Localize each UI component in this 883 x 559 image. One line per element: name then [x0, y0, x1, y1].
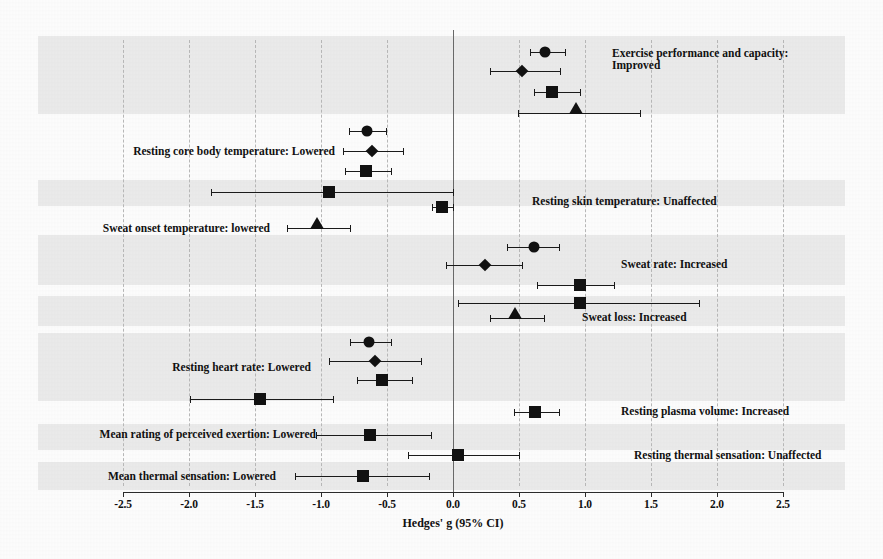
x-axis-tick-label: -1.5	[246, 498, 263, 510]
x-axis: -2.5-2.0-1.5-1.0-0.50.00.51.01.52.02.5He…	[0, 0, 883, 559]
x-axis-tick	[453, 492, 454, 497]
x-axis-tick	[123, 492, 124, 497]
x-axis-tick-label: -2.0	[180, 498, 197, 510]
x-axis-tick	[519, 492, 520, 497]
x-axis-tick	[255, 492, 256, 497]
x-axis-tick-label: 0.5	[512, 498, 526, 510]
x-axis-tick	[717, 492, 718, 497]
x-axis-tick-label: -1.0	[312, 498, 329, 510]
x-axis-tick-label: 0.0	[446, 498, 460, 510]
x-axis-tick	[321, 492, 322, 497]
x-axis-title: Hedges' g (95% CI)	[403, 516, 504, 531]
x-axis-tick	[387, 492, 388, 497]
x-axis-tick-label: -0.5	[378, 498, 395, 510]
x-axis-tick	[783, 492, 784, 497]
x-axis-tick-label: 1.0	[578, 498, 592, 510]
x-axis-tick-label: -2.5	[114, 498, 131, 510]
x-axis-tick-label: 2.5	[776, 498, 790, 510]
x-axis-tick	[651, 492, 652, 497]
x-axis-tick-label: 2.0	[710, 498, 724, 510]
forest-plot: Exercise performance and capacity:Improv…	[0, 0, 883, 559]
x-axis-tick	[585, 492, 586, 497]
x-axis-tick	[189, 492, 190, 497]
x-axis-tick-label: 1.5	[644, 498, 658, 510]
